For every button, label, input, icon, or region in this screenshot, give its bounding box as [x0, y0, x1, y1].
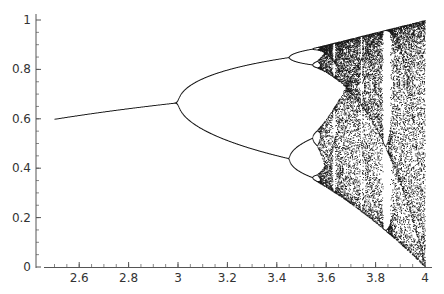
x-tick-label: 2.6: [70, 271, 89, 285]
y-tick-label: 0.4: [12, 161, 31, 175]
x-tick-label: 3.4: [267, 271, 286, 285]
y-tick-label: 0.2: [12, 211, 31, 225]
x-tick-label: 4: [421, 271, 429, 285]
y-axis-ticks: 00.20.40.60.81: [12, 13, 41, 274]
bifurcation-points: [55, 20, 426, 268]
y-tick-label: 0: [23, 260, 31, 274]
y-tick-label: 0.6: [12, 112, 31, 126]
x-tick-label: 2.8: [119, 271, 138, 285]
y-tick-label: 0.8: [12, 62, 31, 76]
data-points: [55, 20, 426, 268]
x-tick-label: 3.2: [218, 271, 237, 285]
bifurcation-chart: 00.20.40.60.81 2.62.833.23.43.63.84: [0, 0, 444, 294]
x-tick-label: 3: [174, 271, 182, 285]
x-tick-label: 3.6: [317, 271, 336, 285]
x-axis-ticks: 2.62.833.23.43.63.84: [55, 262, 429, 285]
x-tick-label: 3.8: [366, 271, 385, 285]
y-tick-label: 1: [23, 13, 31, 27]
